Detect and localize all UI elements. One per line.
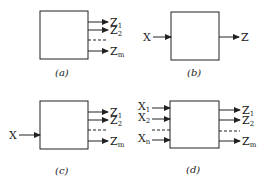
caption-d: (d) — [186, 164, 200, 175]
panel-c: X Z1 Z2 Zm (c) — [9, 101, 125, 176]
block-b — [171, 12, 219, 60]
block-c — [40, 101, 88, 149]
caption-c: (c) — [55, 165, 69, 176]
label-x: X — [143, 31, 151, 44]
label-zm: Zm — [242, 135, 257, 149]
panel-a: Z1 Z2 Zm (a) — [40, 11, 125, 78]
caption-b: (b) — [187, 67, 201, 78]
panel-b: X Z (b) — [143, 12, 249, 78]
label-zm: Zm — [110, 45, 125, 59]
label-zm: Zm — [110, 135, 125, 149]
label-xn: Xn — [138, 132, 151, 146]
block-a — [40, 11, 88, 59]
block-d — [170, 101, 219, 148]
label-z: Z — [241, 31, 249, 44]
block-diagram: Z1 Z2 Zm (a) X Z (b) X Z1 Z2 Zm (c) X1 X… — [0, 0, 266, 182]
label-x: X — [9, 129, 17, 142]
caption-a: (a) — [55, 67, 69, 78]
panel-d: X1 X2 Xn Z1 Z2 Zm (d) — [138, 100, 257, 175]
